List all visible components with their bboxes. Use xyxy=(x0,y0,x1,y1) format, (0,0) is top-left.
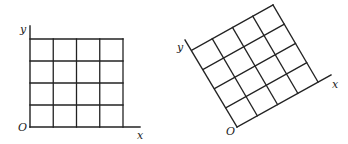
origin-label: O xyxy=(226,125,235,138)
grid-line-vertical xyxy=(233,28,278,105)
grid-line-vertical xyxy=(212,39,257,116)
grid-diagram: xyO xyO xyxy=(0,0,348,144)
x-axis-label: x xyxy=(137,129,144,142)
origin-label: O xyxy=(18,121,27,134)
y-axis xyxy=(185,40,237,127)
x-axis-label: x xyxy=(332,78,339,91)
y-axis-label: y xyxy=(176,41,184,54)
original-grid: xyO xyxy=(18,23,144,142)
x-axis xyxy=(237,75,331,127)
grid-line-vertical xyxy=(253,16,298,93)
y-axis-label: y xyxy=(19,23,27,36)
grid-line-vertical xyxy=(273,5,318,82)
rotated-grid: xyO xyxy=(176,5,339,138)
